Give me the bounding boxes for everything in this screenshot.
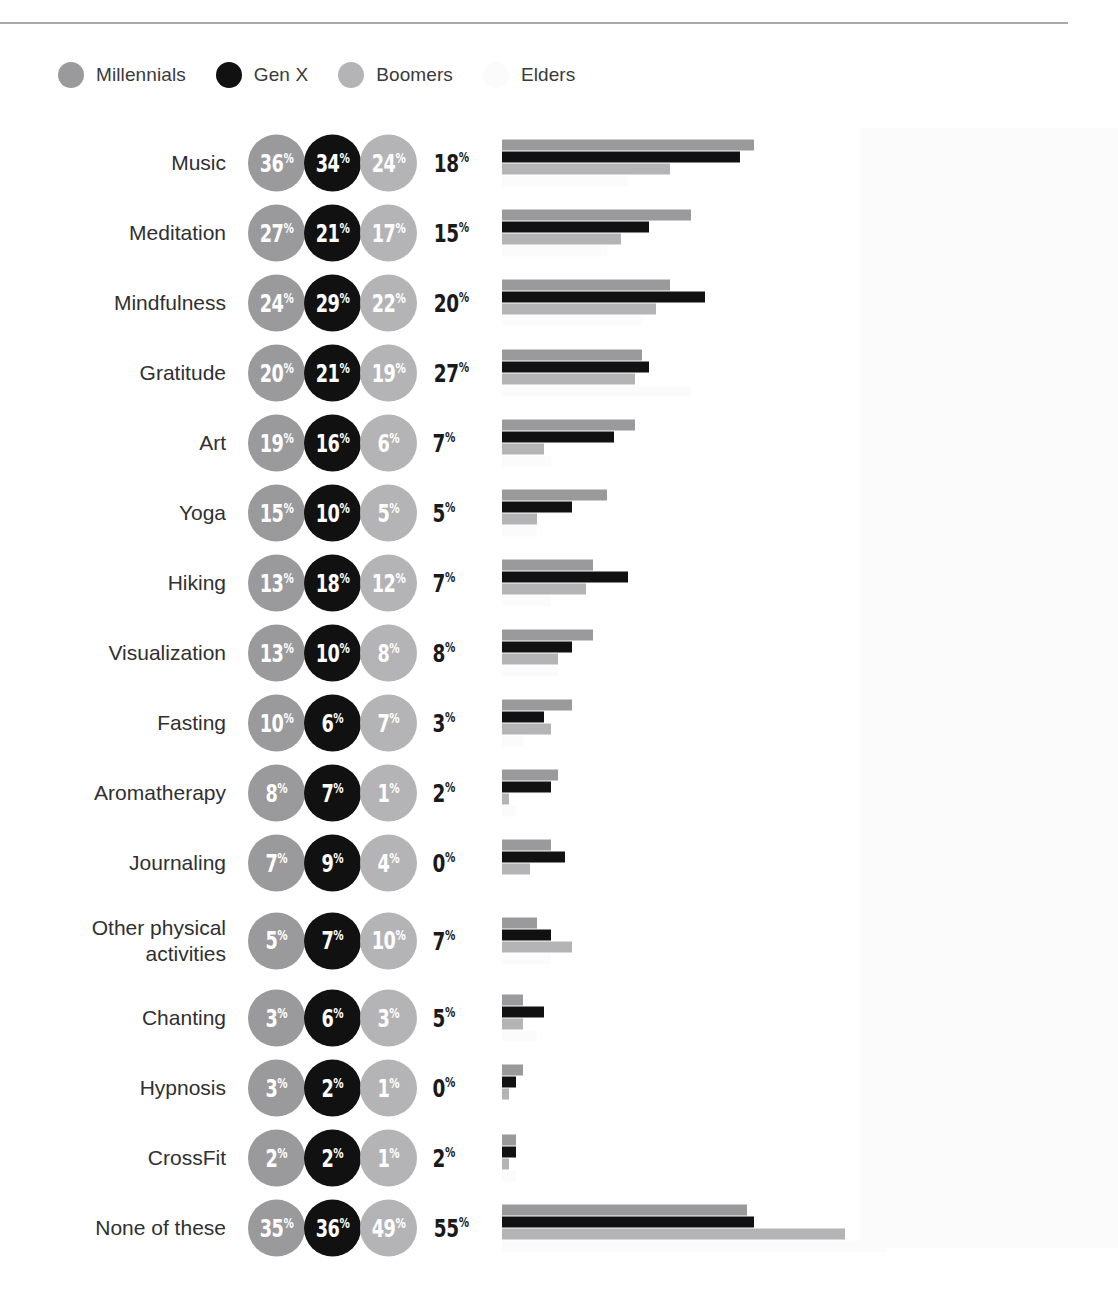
bubble-value-millennials: 7% [266,849,288,877]
bubble-millennials: 27% [248,205,305,262]
row-label-line: Journaling [129,850,226,876]
bubble-number: 8 [378,639,390,667]
chart-row: Journaling7%9%4%0% [0,828,1118,898]
bar-millennials [502,630,593,641]
bubble-number: 7 [322,927,334,955]
bar-boomers [502,1089,509,1100]
chart-row: Other physicalactivities5%7%10%7% [0,898,1118,983]
legend-label: Boomers [376,64,453,86]
bar-gen-x [502,222,649,233]
bubble-genx: 36% [304,1200,361,1257]
percent-sign: % [395,149,405,165]
bar-millennials [502,420,635,431]
elders-value: 8% [430,639,490,668]
row-label-chanting: Chanting [0,983,230,1053]
percent-sign: % [333,779,343,795]
percent-sign: % [283,569,293,585]
bar-elders [502,1241,887,1252]
bar-elders [502,176,628,187]
percent-sign: % [395,219,405,235]
elders-value: 5% [430,1004,490,1033]
bar-millennials [502,840,551,851]
row-label-line: CrossFit [148,1145,226,1171]
bubble-value-genx: 21% [316,219,350,247]
legend-swatch-boomers-icon [338,62,364,88]
bubble-genx: 34% [304,135,361,192]
bubble-number: 1 [378,779,390,807]
bubble-boomers: 17% [360,205,417,262]
bubble-number: 36 [260,149,284,177]
value-bubbles: 2%2%1%2% [248,1130,490,1187]
bar-millennials [502,280,670,291]
elders-number: 0 [432,1074,444,1103]
percent-sign: % [445,927,455,943]
bubble-millennials: 7% [248,835,305,892]
row-label-crossfit: CrossFit [0,1123,230,1193]
elders-value: 5% [430,499,490,528]
chart-row: Hiking13%18%12%7% [0,548,1118,618]
bubble-millennials: 13% [248,625,305,682]
elders-value: 18% [430,149,490,178]
bar-gen-x [502,432,614,443]
row-label-line: Hypnosis [140,1075,226,1101]
bar-gen-x [502,782,551,793]
bubble-genx: 21% [304,205,361,262]
elders-value: 27% [430,359,490,388]
bar-millennials [502,1065,523,1076]
legend-item-millennials[interactable]: Millennials [58,62,186,88]
bubble-value-boomers: 1% [378,1074,400,1102]
percent-sign: % [283,359,293,375]
bubble-value-boomers: 5% [378,499,400,527]
percent-sign: % [277,1004,287,1020]
bubble-number: 7 [266,849,278,877]
bubble-boomers: 1% [360,1130,417,1187]
percent-sign: % [333,849,343,865]
legend-item-boomers[interactable]: Boomers [338,62,453,88]
bubble-millennials: 24% [248,275,305,332]
bar-gen-x [502,712,544,723]
bubble-boomers: 3% [360,990,417,1047]
value-bubbles: 24%29%22%20% [248,275,490,332]
row-label-fasting: Fasting [0,688,230,758]
bubble-value-genx: 21% [316,359,350,387]
elders-number: 0 [432,849,444,878]
chart-row: Visualization13%10%8%8% [0,618,1118,688]
elders-number: 20 [434,289,459,318]
bar-group [502,630,1062,677]
bar-millennials [502,995,523,1006]
bubble-boomers: 22% [360,275,417,332]
percent-sign: % [339,499,349,515]
bubble-genx: 2% [304,1060,361,1117]
value-bubbles: 3%2%1%0% [248,1060,490,1117]
bubble-value-genx: 2% [322,1074,344,1102]
elders-value: 7% [430,429,490,458]
bubble-value-millennials: 19% [260,429,294,457]
legend-item-gen-x[interactable]: Gen X [216,62,308,88]
bubble-millennials: 15% [248,485,305,542]
row-label-line: Chanting [142,1005,226,1031]
bubble-number: 9 [322,849,334,877]
percent-sign: % [283,289,293,305]
bubble-value-boomers: 10% [372,927,406,955]
bubble-millennials: 3% [248,990,305,1047]
percent-sign: % [389,639,399,655]
chart-row: Gratitude20%21%19%27% [0,338,1118,408]
bubble-boomers: 1% [360,765,417,822]
row-label-other-physical-activities: Other physicalactivities [0,898,230,983]
bar-gen-x [502,362,649,373]
bar-gen-x [502,572,628,583]
bubble-boomers: 19% [360,345,417,402]
percent-sign: % [277,1144,287,1160]
bubble-number: 1 [378,1074,390,1102]
bar-boomers [502,864,530,875]
bar-millennials [502,770,558,781]
legend-item-elders[interactable]: Elders [483,62,575,88]
bar-boomers [502,1019,523,1030]
percent-sign: % [445,709,455,725]
bar-millennials [502,560,593,571]
row-label-line: Fasting [157,710,226,736]
bubble-millennials: 20% [248,345,305,402]
value-bubbles: 36%34%24%18% [248,135,490,192]
elders-value: 7% [430,569,490,598]
elders-value: 0% [430,1074,490,1103]
